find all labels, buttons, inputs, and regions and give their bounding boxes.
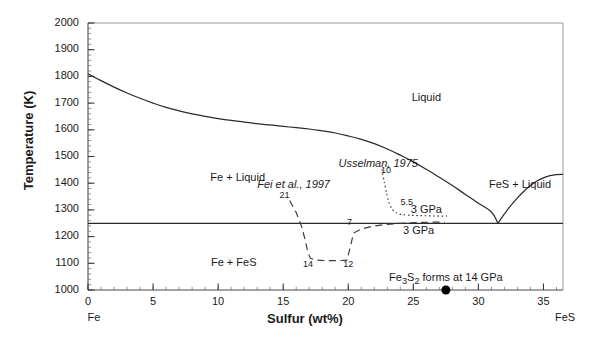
- annotation-fe3s2-note: Fe3S2 forms at 14 GPa: [356, 272, 536, 286]
- y-axis-tick-label: 1800: [0, 70, 79, 81]
- x-axis-left-endmember-label: Fe: [74, 312, 114, 323]
- point-label-fei-12-gpa: 12: [258, 260, 438, 269]
- y-axis-title: Temperature (K): [22, 61, 35, 221]
- y-axis-tick-label: 1700: [0, 97, 79, 108]
- point-label-fei-7-gpa: 7: [260, 218, 440, 227]
- y-axis-tick-label: 1400: [0, 177, 79, 188]
- y-axis-tick-label: 1900: [0, 43, 79, 54]
- point-label-fei-21-gpa: 21: [195, 191, 375, 200]
- phase-diagram-figure: Temperature (K) Sulfur (wt%) Fe FeS 1000…: [0, 0, 610, 344]
- annotation-fei-source: Fei et al., 1997: [204, 179, 384, 190]
- region-label-fes-plus-liquid: FeS + Liquid: [430, 179, 610, 190]
- x-axis-tick-label: 35: [453, 296, 610, 307]
- y-axis-tick-label: 1200: [0, 230, 79, 241]
- y-axis-tick-label: 1100: [0, 257, 79, 268]
- y-axis-tick-label: 1300: [0, 203, 79, 214]
- y-axis-tick-label: 2000: [0, 17, 79, 28]
- point-label-usselman-10-gpa: 10: [296, 166, 476, 175]
- y-axis-tick-label: 1500: [0, 150, 79, 161]
- fe3s2-marker: [441, 286, 450, 295]
- y-axis-tick-label: 1000: [0, 284, 79, 295]
- y-axis-tick-label: 1600: [0, 123, 79, 134]
- region-label-liquid: Liquid: [336, 92, 516, 103]
- x-axis-right-endmember-label: FeS: [545, 312, 585, 323]
